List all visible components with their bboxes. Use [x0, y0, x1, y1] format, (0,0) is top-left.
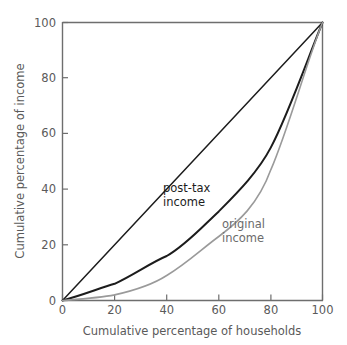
x-axis-title: Cumulative percentage of households — [83, 324, 302, 338]
annotation-post-tax-line1: post-tax — [163, 181, 211, 195]
chart-canvas: 0 20 40 60 80 100 0 20 40 60 80 100 Cumu… — [0, 0, 347, 345]
y-tick-label-100: 100 — [34, 16, 56, 30]
lorenz-curve-chart: 0 20 40 60 80 100 0 20 40 60 80 100 Cumu… — [0, 0, 347, 345]
y-tick-label-60: 60 — [41, 126, 56, 140]
x-tick-label-100: 100 — [312, 303, 334, 317]
x-tick-label-0: 0 — [59, 303, 66, 317]
annotation-post-tax-line2: income — [163, 195, 205, 209]
x-axis-tick-labels: 0 20 40 60 80 100 — [59, 303, 334, 317]
y-tick-label-80: 80 — [41, 71, 56, 85]
series-line-of-equality — [63, 23, 323, 301]
y-tick-label-20: 20 — [41, 238, 56, 252]
annotation-post-tax-income: post-tax income — [163, 181, 211, 209]
annotation-original-income: original income — [222, 217, 265, 245]
x-tick-label-80: 80 — [264, 303, 279, 317]
x-tick-label-40: 40 — [159, 303, 174, 317]
y-axis-tick-labels: 0 20 40 60 80 100 — [34, 16, 56, 308]
annotation-original-line1: original — [222, 217, 265, 231]
y-tick-label-0: 0 — [49, 294, 56, 308]
x-tick-label-20: 20 — [107, 303, 122, 317]
annotation-original-line2: income — [222, 231, 264, 245]
data-series-group — [63, 23, 323, 301]
y-tick-label-40: 40 — [41, 182, 56, 196]
y-axis-ticks — [63, 23, 69, 301]
x-tick-label-60: 60 — [211, 303, 226, 317]
y-axis-title: Cumulative percentage of income — [13, 63, 27, 258]
